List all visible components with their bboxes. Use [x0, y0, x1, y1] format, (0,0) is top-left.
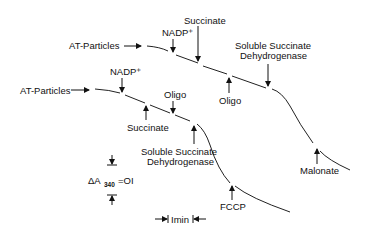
- lower-oligo-label: Oligo: [164, 89, 186, 100]
- lower-trace: AT-Particles NADP⁺ Succinate Oligo Solub…: [20, 66, 290, 212]
- upper-ssd-label-2: Dehydrogenase: [240, 50, 307, 61]
- diagram: AT-Particles NADP⁺ Succinate Oligo Solub…: [0, 0, 381, 241]
- scale-delta: ΔA: [88, 175, 101, 186]
- lower-trace-seg2: [125, 95, 145, 103]
- scale-sub: 340: [104, 181, 115, 188]
- lower-succinate-label: Succinate: [127, 122, 169, 133]
- time-scale: Imin: [155, 214, 206, 225]
- lower-fccp-label: FCCP: [220, 201, 246, 212]
- upper-trace-seg5: [272, 89, 313, 143]
- upper-trace-seg1: [147, 46, 168, 51]
- upper-malonate-label: Malonate: [300, 165, 339, 176]
- lower-trace-seg3: [150, 105, 170, 113]
- upper-succinate-label: Succinate: [184, 15, 226, 26]
- time-label: Imin: [171, 214, 189, 225]
- lower-ssd-label-2: Dehydrogenase: [147, 156, 214, 167]
- upper-start-label: AT-Particles: [69, 40, 120, 51]
- lower-start-label: AT-Particles: [20, 85, 71, 96]
- scale-value: =OI: [118, 175, 134, 186]
- upper-trace-seg3: [203, 66, 227, 74]
- upper-trace-seg4: [232, 76, 266, 88]
- absorbance-scale: ΔA 340 =OI: [88, 155, 134, 205]
- upper-oligo-label: Oligo: [219, 95, 241, 106]
- upper-nadp-label: NADP⁺: [162, 27, 193, 38]
- lower-trace-seg4: [175, 115, 190, 121]
- lower-nadp-label: NADP⁺: [110, 66, 141, 77]
- upper-trace-seg2: [176, 55, 198, 63]
- lower-trace-seg1: [95, 89, 120, 93]
